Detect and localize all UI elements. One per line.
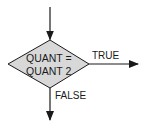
true-label: TRUE xyxy=(92,51,119,61)
decision-line-1: QUANT = xyxy=(26,52,72,65)
flowchart-graphics xyxy=(0,0,146,128)
decision-line-2: QUANT 2 xyxy=(26,65,72,78)
flowchart-canvas: QUANT = QUANT 2 TRUE FALSE xyxy=(0,0,146,128)
false-label: FALSE xyxy=(55,91,86,101)
decision-condition: QUANT = QUANT 2 xyxy=(26,52,72,78)
